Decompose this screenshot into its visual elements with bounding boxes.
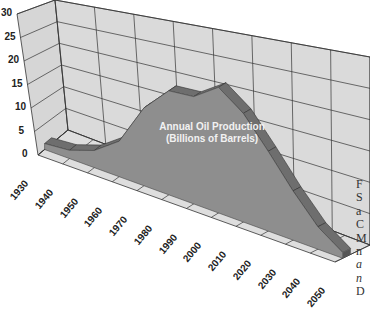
series-label: Annual Oil Production (Billions of Barre…: [122, 121, 302, 145]
y-tick-label: 30: [1, 7, 12, 18]
y-tick-label: 0: [22, 148, 28, 159]
series-label-line-2: (Billions of Barrels): [122, 133, 302, 145]
series-label-line-1: Annual Oil Production: [122, 121, 302, 133]
y-tick-label: 20: [8, 54, 19, 65]
cropped-side-text: F S a C M n a n D: [356, 178, 367, 299]
y-tick-label: 10: [15, 101, 26, 112]
y-tick-label: 15: [12, 78, 23, 89]
y-tick-label: 5: [19, 125, 25, 136]
y-tick-label: 25: [5, 31, 16, 42]
